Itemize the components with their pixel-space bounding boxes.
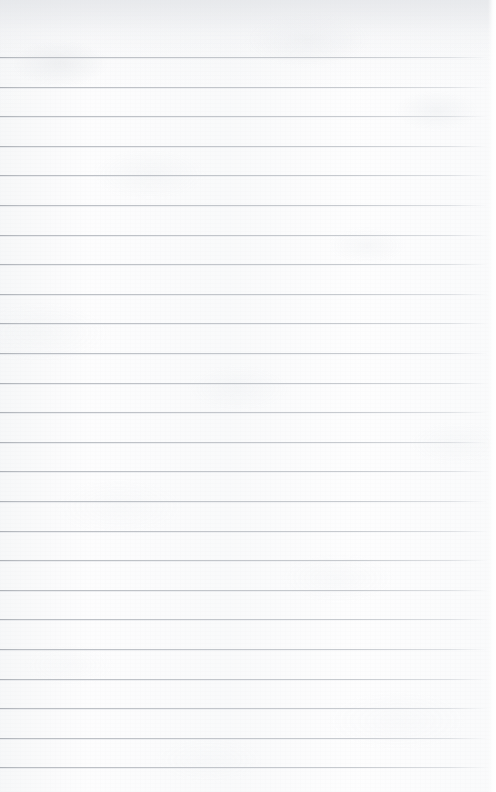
writing-area[interactable] bbox=[0, 57, 488, 780]
right-margin-fade bbox=[488, 0, 496, 792]
ruled-paper-sheet bbox=[0, 0, 496, 792]
top-edge-shading bbox=[0, 0, 496, 56]
